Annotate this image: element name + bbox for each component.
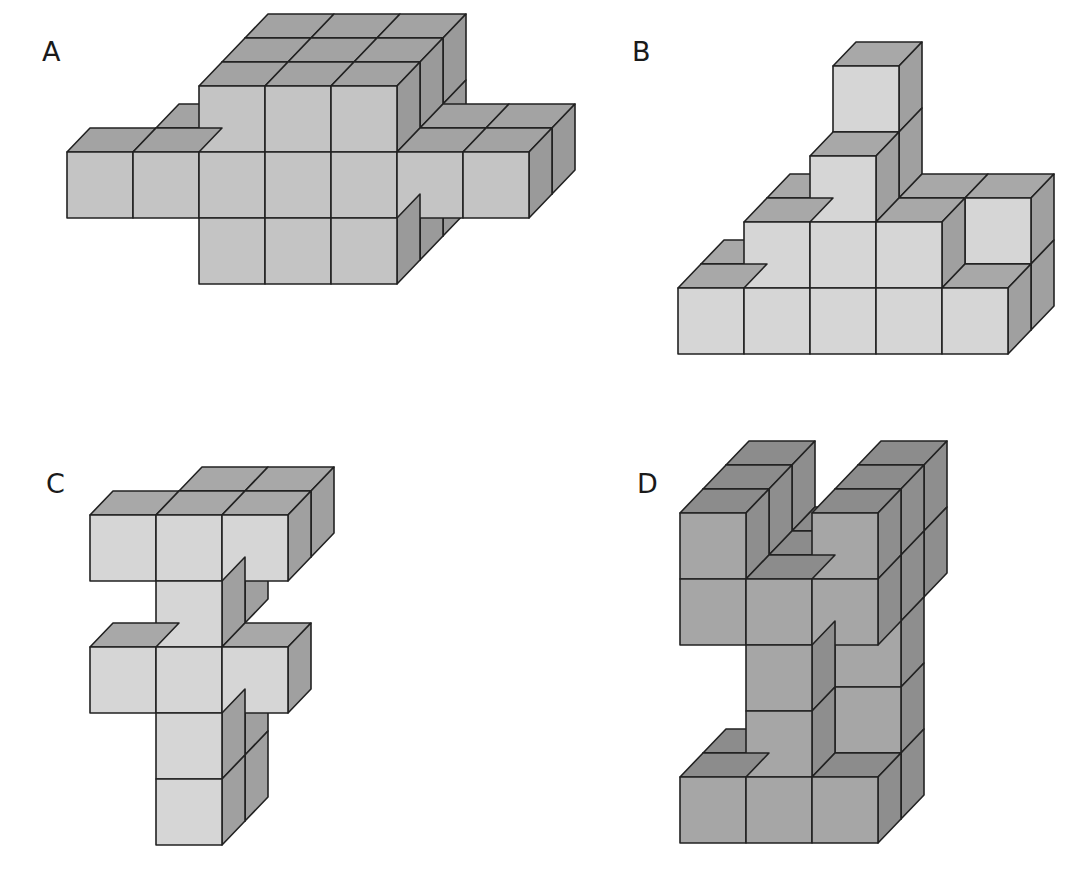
cube-front-face bbox=[746, 579, 812, 645]
cube-front-face bbox=[746, 777, 812, 843]
cube-front-face bbox=[680, 579, 746, 645]
cube-front-face bbox=[746, 645, 812, 711]
cube-front-face bbox=[680, 777, 746, 843]
cube-front-face bbox=[835, 687, 901, 753]
cube-front-face bbox=[812, 777, 878, 843]
cube-front-face bbox=[680, 513, 746, 579]
cube-figure-d bbox=[0, 0, 1090, 873]
